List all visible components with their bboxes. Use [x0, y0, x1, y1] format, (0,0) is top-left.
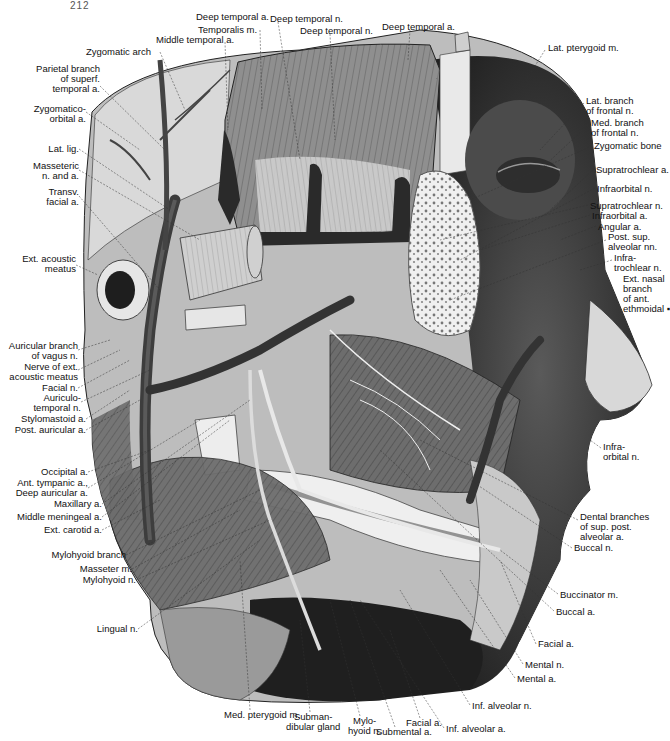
label-infraorbital-n-2: Infra- orbital n.	[603, 442, 639, 462]
label-inf-alveolar-a: Inf. alveolar a.	[446, 724, 506, 734]
label-post-sup-alveolar-nn: Post. sup. alveolar nn.	[608, 232, 657, 252]
label-infratrochlear-n: Infra- trochlear n.	[614, 253, 662, 273]
label-zygomatic-arch: Zygomatic arch	[86, 47, 151, 57]
label-mental-a: Mental a.	[517, 674, 556, 684]
label-deep-temporal-a-2: Deep temporal a.	[382, 22, 455, 32]
label-ext-acoustic-meatus: Ext. acoustic meatus	[6, 254, 76, 274]
label-ant-tympanic-a: Ant. tympanic a., Deep auricular a.	[6, 478, 88, 498]
label-infraorbital-a: Infraorbital a.	[592, 211, 647, 221]
label-inf-alveolar-n: Inf. alveolar n.	[472, 701, 532, 711]
label-deep-temporal-n-2: Deep temporal n.	[300, 26, 373, 36]
label-lingual-n: Lingual n.	[6, 624, 138, 634]
label-mylohyoid-branch: Mylohyoid branch	[6, 550, 126, 560]
label-infraorbital-n: Infraorbital n.	[597, 184, 652, 194]
label-deep-temporal-a: Deep temporal a.	[196, 12, 269, 22]
label-lat-branch-frontal-n: Lat. branch of frontal n.	[586, 96, 634, 116]
label-buccinator-m: Buccinator m.	[560, 590, 618, 600]
label-occipital-a: Occipital a.	[6, 467, 88, 477]
label-zygomatic-bone: Zygomatic bone	[594, 141, 662, 151]
label-transv-facial-a: Transv. facial a.	[6, 187, 79, 207]
label-post-auricular-a: Post. auricular a.	[6, 425, 86, 435]
label-maxillary-a: Maxillary a.	[6, 499, 102, 509]
label-submental-a: Submental a.	[376, 727, 432, 737]
label-lat-lig: Lat. lig.	[6, 144, 79, 154]
label-mylohyoid-n: Mylohyoid n.	[6, 575, 136, 585]
label-ext-carotid-a: Ext. carotid a.	[6, 525, 102, 535]
label-middle-temporal-a: Middle temporal a.	[156, 35, 234, 45]
label-dental-branches: Dental branches of sup. post. alveolar a…	[580, 512, 649, 542]
temporalis-tendon	[255, 157, 410, 235]
label-facial-a: Facial a.	[538, 639, 574, 649]
label-supratrochlear-a: Supratrochlear a.	[596, 165, 669, 175]
label-zygomatico-orbital-a: Zygomatico- orbital a.	[6, 104, 86, 124]
label-deep-temporal-n: Deep temporal n.	[270, 14, 343, 24]
label-auricular-branch-vagus: Auricular branch of vagus n.	[6, 341, 78, 361]
label-med-branch-frontal-n: Med. branch of frontal n.	[591, 118, 644, 138]
label-masseteric-n-and-a: Masseteric n. and a.	[6, 161, 79, 181]
label-submandibular-gland: Subman- dibular gland	[286, 712, 340, 732]
label-masseter-m: Masseter m.	[6, 564, 132, 574]
label-auriculotemporal-n: Auriculo- temporal n.	[6, 393, 81, 413]
label-parietal-branch: Parietal branch of superf. temporal a.	[6, 64, 100, 94]
label-mental-n: Mental n.	[525, 660, 564, 670]
label-nerve-ext-acoustic-meatus: Nerve of ext. acoustic meatus	[6, 362, 78, 382]
label-lat-pterygoid-m: Lat. pterygoid m.	[548, 43, 619, 53]
label-ext-nasal-branch: Ext. nasal branch of ant. ethmoidal ▪	[623, 274, 670, 314]
label-stylomastoid-a: Stylomastoid a.	[6, 414, 86, 424]
label-buccal-n: Buccal n.	[574, 543, 613, 553]
label-middle-meningeal-a: Middle meningeal a.	[6, 512, 102, 522]
label-buccal-a: Buccal a.	[556, 607, 595, 617]
